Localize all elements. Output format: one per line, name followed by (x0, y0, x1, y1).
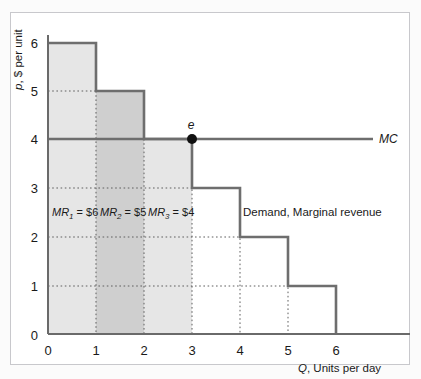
marginal-cost-label: MC (379, 132, 398, 146)
x-axis-title-italic: Q (298, 362, 307, 374)
x-tick-label-5: 5 (284, 343, 291, 358)
mr3-base: MR (148, 206, 165, 218)
y-tick-label-2: 2 (31, 230, 38, 245)
y-tick-label-5: 5 (31, 84, 38, 99)
mr1-base: MR (52, 206, 69, 218)
y-tick-label-3: 3 (31, 181, 38, 196)
y-tick-label-4: 4 (31, 132, 38, 147)
shaded-region-mr3 (144, 139, 192, 334)
mr2-base: MR (100, 206, 117, 218)
equilibrium-point-label: e (188, 118, 195, 132)
figure-background: 0 1 2 3 4 5 6 6 5 4 3 2 1 0 p, $ per uni… (0, 0, 421, 379)
x-axis-title-roman: , Units per day (307, 362, 381, 374)
demand-marginal-revenue-label: Demand, Marginal revenue (243, 206, 382, 218)
x-axis-title: Q, Units per day (298, 362, 381, 374)
mr1-rest: = $6 (74, 206, 99, 218)
equilibrium-point-e (187, 134, 197, 144)
y-tick-label-0: 0 (31, 328, 38, 343)
shaded-region-mr1 (48, 43, 96, 334)
economics-step-chart: 0 1 2 3 4 5 6 6 5 4 3 2 1 0 p, $ per uni… (0, 0, 421, 379)
y-tick-label-1: 1 (31, 279, 38, 294)
mr2-rest: = $5 (122, 206, 147, 218)
y-tick-label-6: 6 (31, 36, 38, 51)
x-tick-label-0: 0 (44, 343, 51, 358)
y-axis-title-roman: , $ per unit (12, 28, 24, 83)
x-tick-label-2: 2 (140, 343, 147, 358)
x-tick-label-4: 4 (236, 343, 243, 358)
y-axis-title: p, $ per unit (12, 28, 24, 91)
x-tick-label-6: 6 (332, 343, 339, 358)
x-tick-label-3: 3 (188, 343, 195, 358)
mr3-rest: = $4 (170, 206, 195, 218)
x-tick-label-1: 1 (92, 343, 99, 358)
